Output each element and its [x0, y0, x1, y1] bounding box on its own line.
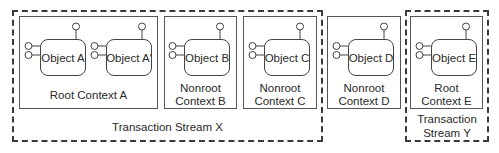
object-e-connectors-icon [0, 0, 499, 153]
